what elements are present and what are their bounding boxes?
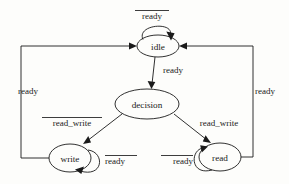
edge-label-decision-read-text: read_write <box>200 118 238 128</box>
edge-read-to-idle <box>179 42 253 157</box>
fsm-canvas: idle decision write read ready ready rea… <box>0 0 289 184</box>
edge-idle-to-decision-path <box>152 57 155 84</box>
node-read-label: read <box>212 153 228 163</box>
edge-decision-to-write-arrowhead <box>83 136 91 144</box>
edge-read-self-loop-path <box>194 148 212 171</box>
node-write-label: write <box>61 154 80 164</box>
node-idle-label: idle <box>151 42 165 52</box>
edge-write-to-idle <box>21 42 137 158</box>
edge-label-decision-write-text: read_write <box>53 118 91 128</box>
edge-label-write-idle: ready <box>18 86 38 96</box>
node-write[interactable]: write <box>49 144 91 172</box>
edge-label-idle-self-text: ready <box>142 11 162 21</box>
edge-label-write-self-text: ready <box>105 156 125 166</box>
edge-idle-to-decision <box>148 57 156 89</box>
edge-label-idle-self: ready <box>135 11 169 22</box>
node-read[interactable]: read <box>199 143 241 171</box>
edge-label-idle-decision: ready <box>163 65 183 75</box>
state-diagram: idle decision write read ready ready rea… <box>0 0 289 184</box>
edge-read-to-idle-path <box>184 46 253 157</box>
edge-label-read-self: ready <box>161 156 193 167</box>
node-decision-label: decision <box>132 100 163 110</box>
edge-read-to-idle-arrowhead <box>179 42 187 49</box>
edge-idle-self-loop-path <box>142 26 170 39</box>
node-idle[interactable]: idle <box>137 35 179 57</box>
edge-label-decision-write: read_write <box>42 118 102 129</box>
edge-label-write-self: ready <box>105 156 137 167</box>
edge-label-read-idle: ready <box>255 86 275 96</box>
edge-idle-self-loop <box>142 26 174 40</box>
edge-label-write-idle-text: ready <box>18 86 38 96</box>
node-decision[interactable]: decision <box>115 89 179 119</box>
edge-label-decision-read: read_write <box>200 118 238 128</box>
edge-decision-to-write-path <box>87 114 122 141</box>
edge-label-idle-decision-text: ready <box>163 65 183 75</box>
edge-label-read-idle-text: ready <box>255 86 275 96</box>
edge-write-to-idle-arrowhead <box>129 42 137 49</box>
edge-label-read-self-text: ready <box>173 156 193 166</box>
edge-idle-to-decision-arrowhead <box>148 81 156 89</box>
edge-decision-to-read-arrowhead <box>203 135 211 143</box>
